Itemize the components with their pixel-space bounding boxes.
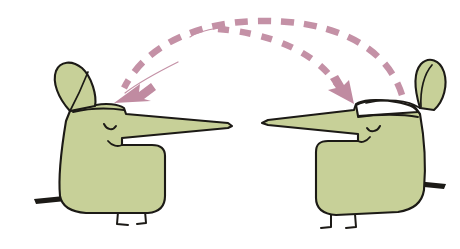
illustration-canvas: Two facing creatures exchanging ideas Ha… (0, 0, 460, 249)
illustration-svg: Two facing creatures exchanging ideas Ha… (0, 0, 460, 249)
